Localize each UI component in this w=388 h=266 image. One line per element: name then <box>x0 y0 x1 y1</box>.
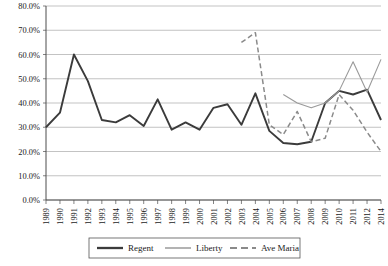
x-tick-label: 2002 <box>224 208 233 225</box>
chart-legend: RegentLibertyAve Maria <box>89 238 300 258</box>
y-tick-label: 70.0% <box>18 26 40 35</box>
x-tick-label: 2011 <box>349 208 358 224</box>
y-tick-label: 50.0% <box>18 75 40 84</box>
chart-container: 0.0%10.0%20.0%30.0%40.0%50.0%60.0%70.0%8… <box>0 0 388 266</box>
x-tick-label: 1997 <box>154 208 163 225</box>
y-tick-label: 60.0% <box>18 51 40 60</box>
legend-label-regent: Regent <box>128 243 154 253</box>
x-tick-label: 1998 <box>168 208 177 225</box>
x-tick-label: 1991 <box>70 208 79 225</box>
x-tick-label: 2014 <box>377 207 386 225</box>
y-tick-label: 0.0% <box>23 196 40 205</box>
series-lines <box>46 33 381 152</box>
x-tick-label: 2010 <box>335 208 344 225</box>
y-tick-label: 40.0% <box>18 99 40 108</box>
x-tick-label: 1994 <box>112 207 121 225</box>
x-tick-label: 1995 <box>126 208 135 225</box>
x-tick-label: 1999 <box>182 208 191 225</box>
x-tick-label: 1996 <box>140 208 149 225</box>
x-tick-label: 1990 <box>56 208 65 225</box>
x-tick-label: 1993 <box>98 208 107 225</box>
x-tick-label: 1989 <box>42 208 51 225</box>
x-tick-label: 2004 <box>252 207 261 225</box>
x-tick-label: 2003 <box>238 208 247 225</box>
x-tick-label: 2008 <box>307 208 316 225</box>
x-tick-label: 1992 <box>84 208 93 225</box>
y-tick-label: 30.0% <box>18 123 40 132</box>
y-tick-label: 80.0% <box>18 2 40 11</box>
x-tick-label: 2005 <box>266 208 275 225</box>
series-line-liberty <box>283 59 381 108</box>
x-tick-label: 2006 <box>279 208 288 225</box>
x-axis: 1989199019911992199319941995199619971998… <box>42 200 386 225</box>
legend-label-liberty: Liberty <box>196 243 223 253</box>
legend-label-ave-maria: Ave Maria <box>261 243 299 253</box>
x-tick-label: 2007 <box>293 208 302 225</box>
x-tick-label: 2000 <box>196 208 205 225</box>
series-line-regent <box>46 55 381 145</box>
x-tick-label: 2012 <box>363 208 372 225</box>
x-tick-label: 2001 <box>210 208 219 225</box>
x-tick-label: 2009 <box>321 208 330 225</box>
y-tick-label: 10.0% <box>18 172 40 181</box>
y-tick-label: 20.0% <box>18 148 40 157</box>
line-chart: 0.0%10.0%20.0%30.0%40.0%50.0%60.0%70.0%8… <box>0 0 388 266</box>
y-axis: 0.0%10.0%20.0%30.0%40.0%50.0%60.0%70.0%8… <box>18 2 46 205</box>
